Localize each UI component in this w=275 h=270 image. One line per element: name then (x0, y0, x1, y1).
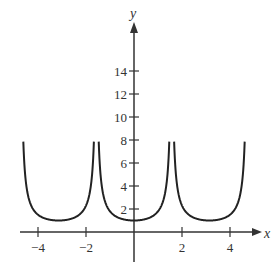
chart: y x −4−224 2468101214 (0, 0, 275, 270)
y-tick-label: 2 (121, 202, 128, 217)
y-tick-label: 6 (121, 156, 128, 171)
y-tick-label: 10 (114, 110, 127, 125)
y-tick-label: 14 (114, 64, 128, 79)
x-tick-label: 4 (227, 240, 234, 255)
y-tick-label: 8 (121, 133, 128, 148)
y-ticks: 2468101214 (114, 64, 139, 217)
y-axis-arrow-icon (130, 22, 138, 33)
curve-branch (23, 142, 94, 221)
x-ticks: −4−224 (31, 227, 234, 255)
y-tick-label: 12 (114, 87, 127, 102)
x-tick-label: 2 (179, 240, 186, 255)
y-axis-label: y (128, 6, 137, 21)
x-tick-label: −2 (79, 240, 93, 255)
x-axis-arrow-icon (252, 228, 262, 236)
y-tick-label: 4 (121, 179, 128, 194)
curve-branch (174, 142, 245, 221)
x-axis-label: x (263, 226, 271, 241)
x-tick-label: −4 (31, 240, 45, 255)
